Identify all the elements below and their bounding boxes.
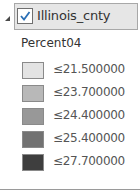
legend-item[interactable]: ≤24.400000 <box>22 108 140 126</box>
color-swatch[interactable] <box>22 62 44 79</box>
legend-item[interactable]: ≤27.700000 <box>22 154 140 172</box>
layer-name: Illinois_cnty <box>37 7 110 25</box>
color-swatch[interactable] <box>22 154 44 171</box>
layer-selection-highlight[interactable]: Illinois_cnty <box>14 3 138 30</box>
legend-item[interactable]: ≤25.400000 <box>22 131 140 149</box>
checkmark-icon <box>19 10 31 22</box>
symbology-field-name: Percent04 <box>21 35 81 51</box>
legend-label: ≤23.700000 <box>53 84 125 101</box>
color-swatch[interactable] <box>22 108 44 125</box>
divider <box>0 189 140 190</box>
legend-label: ≤25.400000 <box>53 130 125 147</box>
layer-visibility-checkbox[interactable] <box>17 8 33 24</box>
legend-item[interactable]: ≤23.700000 <box>22 85 140 103</box>
legend-label: ≤27.700000 <box>53 153 125 170</box>
layer-row-illinois-cnty[interactable]: Illinois_cnty <box>0 3 140 30</box>
collapse-triangle-icon[interactable] <box>5 16 10 21</box>
color-swatch[interactable] <box>22 131 44 148</box>
legend-item[interactable]: ≤21.500000 <box>22 62 140 80</box>
legend-label: ≤24.400000 <box>53 107 125 124</box>
color-swatch[interactable] <box>22 85 44 102</box>
legend-label: ≤21.500000 <box>53 61 125 78</box>
